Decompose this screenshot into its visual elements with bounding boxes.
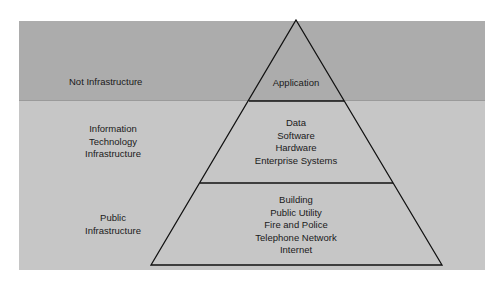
tier-item: Data	[236, 117, 356, 130]
tier-item: Application	[256, 77, 336, 90]
tier-item: Telephone Network	[236, 232, 356, 245]
tier-item: Internet	[236, 244, 356, 257]
tier-item: Enterprise Systems	[236, 155, 356, 168]
tier-item: Hardware	[236, 142, 356, 155]
tier-item: Fire and Police	[236, 219, 356, 232]
label-line: Information	[78, 123, 148, 136]
label-line: Technology	[78, 136, 148, 149]
tier-application: Application	[256, 77, 336, 90]
tier-item: Building	[236, 194, 356, 207]
label-it-infrastructure: Information Technology Infrastructure	[78, 123, 148, 161]
label-line: Infrastructure	[78, 148, 148, 161]
tier-public-infrastructure: Building Public Utility Fire and Police …	[236, 194, 356, 257]
label-not-infrastructure: Not Infrastructure	[69, 76, 142, 89]
label-line: Not Infrastructure	[69, 76, 142, 89]
tier-information-technology: Data Software Hardware Enterprise System…	[236, 117, 356, 167]
tier-item: Software	[236, 130, 356, 143]
label-public-infrastructure: Public Infrastructure	[78, 212, 148, 237]
label-line: Infrastructure	[78, 225, 148, 238]
tier-item: Public Utility	[236, 207, 356, 220]
label-line: Public	[78, 212, 148, 225]
